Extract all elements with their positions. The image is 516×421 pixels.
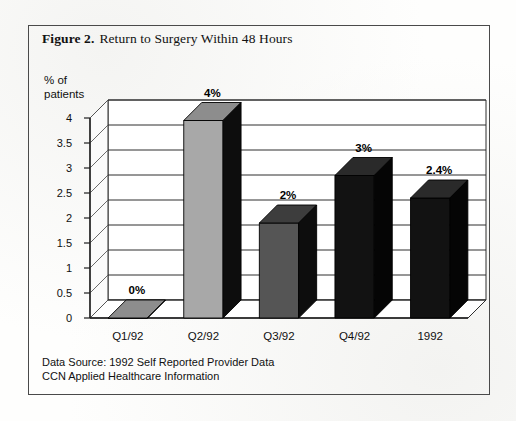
bar-value-label: 2.4% bbox=[426, 164, 452, 176]
bar-side-face bbox=[450, 180, 468, 318]
bar-side-face bbox=[223, 103, 241, 319]
bar-front-face bbox=[259, 223, 298, 318]
bar-side-face bbox=[299, 205, 317, 318]
bar-front-face bbox=[335, 176, 374, 319]
x-axis-tick-labels: Q1/92Q2/92Q3/92Q4/921992 bbox=[90, 330, 468, 348]
bar-value-label: 4% bbox=[204, 87, 221, 99]
source-note: Data Source: 1992 Self Reported Provider… bbox=[42, 355, 274, 383]
bar-side-face bbox=[374, 158, 392, 319]
bar-value-label: 3% bbox=[355, 142, 372, 154]
bar-front-face bbox=[411, 198, 450, 318]
x-axis-tick-label: Q1/92 bbox=[90, 330, 166, 348]
x-axis-tick-label: Q4/92 bbox=[317, 330, 393, 348]
bar-value-label: 0% bbox=[128, 284, 145, 296]
bar-value-label: 2% bbox=[280, 189, 297, 201]
x-axis-tick-label: 1992 bbox=[392, 330, 468, 348]
bar-front-face bbox=[184, 121, 223, 319]
x-axis-tick-label: Q2/92 bbox=[166, 330, 242, 348]
x-axis-tick-label: Q3/92 bbox=[241, 330, 317, 348]
